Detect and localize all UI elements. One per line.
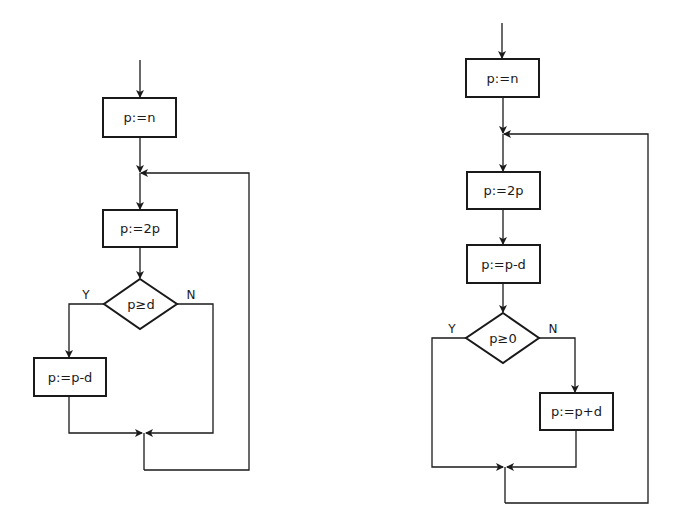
flowchart-canvas: p:=n p:=2p p≥d Y N p:=p-d	[0, 0, 678, 523]
yes-label: Y	[447, 322, 456, 336]
yes-label: Y	[81, 288, 90, 302]
decision-diamond: p≥d	[104, 279, 177, 329]
left-flowchart: p:=n p:=2p p≥d Y N p:=p-d	[34, 60, 249, 470]
box-subtract: p:=p-d	[34, 358, 106, 396]
box-subtract: p:=p-d	[467, 245, 540, 283]
box-add: p:=p+d	[540, 393, 613, 430]
yes-branch-line	[432, 338, 503, 467]
box-double: p:=2p	[103, 210, 177, 247]
box-init-label: p:=n	[487, 71, 519, 86]
box-init-label: p:=n	[124, 110, 156, 125]
decision-label: p≥d	[127, 297, 154, 312]
no-label: N	[187, 288, 196, 302]
box-subtract-label: p:=p-d	[48, 370, 93, 385]
no-label: N	[549, 322, 558, 336]
box-double-label: p:=2p	[483, 183, 523, 198]
no-branch-line	[539, 338, 575, 392]
decision-label: p≥0	[489, 331, 516, 346]
yes-branch-line	[69, 304, 104, 357]
box-init: p:=n	[466, 59, 539, 97]
box-add-label: p:=p+d	[551, 404, 602, 419]
right-flowchart: p:=n p:=2p p:=p-d p≥0 Y N p:=p+d	[432, 23, 648, 503]
box-init: p:=n	[103, 98, 176, 137]
merge-line-right	[507, 430, 576, 467]
box-double-label: p:=2p	[120, 221, 160, 236]
decision-diamond: p≥0	[466, 313, 539, 363]
box-subtract-label: p:=p-d	[481, 257, 526, 272]
box-double: p:=2p	[467, 172, 540, 209]
merge-line-left	[69, 396, 142, 433]
no-branch-line	[146, 304, 213, 433]
